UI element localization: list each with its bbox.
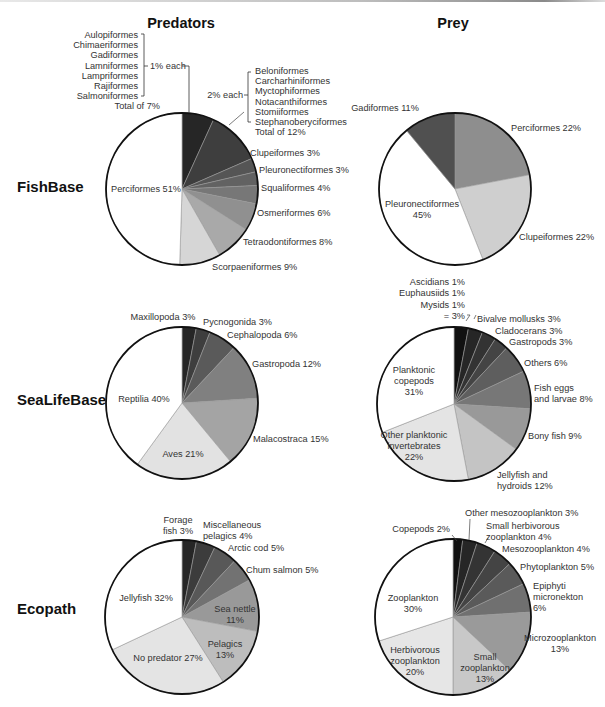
minor-prey-total: = 3%: [444, 311, 465, 321]
row-title-fishbase: FishBase: [17, 178, 84, 195]
label-scorpaeniformes: Scorpaeniformes 9%: [212, 262, 297, 272]
label-perciformes: Perciformes 22%: [511, 123, 581, 133]
one-percent-item-lamniformes: Lamniformes: [85, 61, 139, 71]
label-malacostraca: Malacostraca 15%: [253, 434, 329, 444]
row-title-sealifebase: SeaLifeBase: [17, 391, 106, 408]
one-percent-item-aulopiformes: Aulopiformes: [84, 30, 138, 40]
label-jellyfish-and-hydroids: Jellyfish andhydroids 12%: [497, 470, 553, 491]
label-chum-salmon: Chum salmon 5%: [246, 565, 319, 575]
one-percent-group-annotation: AulopiformesChimaeriformesGadiformesLamn…: [73, 30, 189, 112]
pie-ecopath-prey: Copepods 2%Other mesozooplankton 3%Small…: [375, 508, 596, 695]
label-no-predator: No predator 27%: [133, 653, 202, 663]
pie-fishbase-prey: Perciformes 22%Clupeiformes 22%Pleuronec…: [351, 103, 594, 265]
label-clupeiformes: Clupeiformes 22%: [519, 232, 594, 242]
minor-prey-group-annotation: Ascidians 1%Euphausiids 1%Mysids 1% = 3%: [399, 277, 476, 321]
label-small-herbivorous-zooplankton: Small herbivorouszooplankton 4%: [486, 521, 560, 542]
column-title-predators: Predators: [147, 15, 215, 31]
other-meso-leader: [469, 519, 470, 540]
one-percent-item-gadiformes: Gadiformes: [91, 50, 139, 60]
one-percent-leader: [182, 66, 189, 112]
label-mesozooplankton: Mesozooplankton 4%: [502, 544, 590, 554]
label-tetraodontiformes: Tetraodontiformes 8%: [243, 237, 332, 247]
two-percent-leader: [229, 112, 244, 125]
pie-chart-figure: Predators Prey FishBase SeaLifeBase Ecop…: [0, 0, 605, 707]
row-title-ecopath: Ecopath: [17, 600, 76, 617]
label-aves: Aves 21%: [162, 449, 203, 459]
minor-prey-item-mysids-1: Mysids 1%: [421, 300, 465, 310]
label-perciformes: Perciformes 51%: [111, 184, 181, 194]
label-cephalopoda: Cephalopoda 6%: [227, 330, 298, 340]
one-percent-label: 1% each: [150, 61, 186, 71]
label-squaliformes: Squaliformes 4%: [261, 183, 330, 193]
two-percent-item-stomiiformes: Stomiiformes: [255, 107, 309, 117]
one-percent-item-rajiformes: Rajiformes: [94, 81, 138, 91]
label-copepods: Copepods 2%: [392, 524, 450, 534]
label-jellyfish: Jellyfish 32%: [119, 593, 173, 603]
two-percent-group-annotation: BeloniformesCarcharhiniformesMyctophifor…: [207, 66, 347, 137]
one-percent-item-lampriformes: Lampriformes: [82, 71, 139, 81]
one-percent-bracket: [141, 34, 144, 96]
label-arctic-cod: Arctic cod 5%: [228, 543, 284, 553]
label-reptilia: Reptilia 40%: [118, 394, 170, 404]
two-percent-item-notacanthiformes: Notacanthiformes: [255, 97, 327, 107]
label-bony-fish: Bony fish 9%: [528, 431, 582, 441]
label-osmeriformes: Osmeriformes 6%: [257, 208, 331, 218]
two-percent-label: 2% each: [207, 90, 243, 100]
label-forage-fish: Foragefish 3%: [163, 515, 193, 536]
label-miscellaneous-pelagics: Miscellaneouspelagics 4%: [203, 520, 262, 541]
label-bivalve-mollusks: Bivalve mollusks 3%: [477, 314, 561, 324]
two-percent-item-carcharhiniformes: Carcharhiniformes: [255, 76, 330, 86]
one-percent-total: Total of 7%: [115, 101, 160, 111]
two-percent-bracket: [248, 72, 251, 122]
pie-ecopath-predators: Foragefish 3%Miscellaneouspelagics 4%Arc…: [105, 515, 319, 694]
label-clupeiformes: Clupeiformes 3%: [250, 148, 320, 158]
pie-sealifebase-predators: Maxillopoda 3%Pycnogonida 3%Cephalopoda …: [106, 312, 329, 479]
label-gadiformes: Gadiformes 11%: [351, 103, 419, 113]
column-title-prey: Prey: [437, 15, 468, 31]
label-pleuronectiformes: Pleuronectiformes 3%: [259, 165, 349, 175]
one-percent-item-salmoniformes: Salmoniformes: [77, 91, 139, 101]
label-microzooplankton: Microzooplankton13%: [524, 633, 596, 654]
label-gastropods: Gastropods 3%: [509, 337, 572, 347]
label-phytoplankton: Phytoplankton 5%: [520, 562, 594, 572]
two-percent-item-myctophiformes: Myctophiformes: [255, 86, 320, 96]
two-percent-item-stephanoberyciformes: Stephanoberyciformes: [255, 117, 347, 127]
pie-charts: Clupeiformes 3%Pleuronectiformes 3%Squal…: [105, 103, 596, 695]
label-others: Others 6%: [524, 358, 567, 368]
minor-prey-item-euphausiids-1: Euphausiids 1%: [399, 288, 465, 298]
pie-fishbase-predators: Clupeiformes 3%Pleuronectiformes 3%Squal…: [106, 113, 349, 272]
minor-prey-item-ascidians-1: Ascidians 1%: [410, 277, 465, 287]
label-gastropoda: Gastropoda 12%: [252, 359, 321, 369]
pie-sealifebase-prey: Bivalve mollusks 3%Cladocerans 3%Gastrop…: [377, 314, 593, 491]
two-percent-item-beloniformes: Beloniformes: [255, 66, 309, 76]
label-cladocerans: Cladocerans 3%: [495, 326, 562, 336]
label-maxillopoda: Maxillopoda 3%: [131, 312, 196, 322]
one-percent-item-chimaeriformes: Chimaeriformes: [73, 40, 138, 50]
label-fish-eggs-and-larvae: Fish eggsand larvae 8%: [534, 383, 593, 404]
label-other-mesozooplankton: Other mesozooplankton 3%: [465, 508, 578, 518]
two-percent-total: Total of 12%: [255, 127, 306, 137]
label-pycnogonida: Pycnogonida 3%: [203, 317, 272, 327]
label-epiphyti-micronekton: Epiphytimicronekton6%: [533, 581, 583, 613]
